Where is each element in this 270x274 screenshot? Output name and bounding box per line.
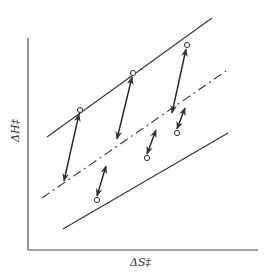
arrow-down-2 [147,130,156,154]
upper-solid-line [47,18,212,137]
lower-solid-line [63,133,228,229]
compensation-diagram [0,0,270,274]
arrow-down-3 [177,108,185,129]
arrow-up-2 [117,77,132,139]
upper-point-3 [184,42,189,47]
lower-point-1 [94,197,99,202]
upper-point-2 [130,70,135,75]
arrow-up-1 [64,114,79,181]
lower-point-3 [174,130,179,135]
y-axis-label: ΔH‡ [9,119,22,142]
x-axis-label: ΔS‡ [130,256,151,269]
middle-dashed-line [42,71,226,198]
lower-point-2 [144,155,149,160]
upper-point-1 [77,107,82,112]
arrow-down-1 [97,166,106,196]
